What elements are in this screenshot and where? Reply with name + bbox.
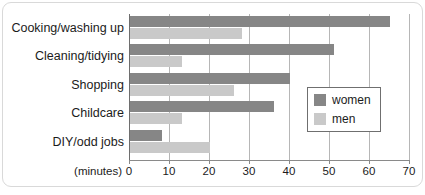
gridline-40	[289, 14, 290, 160]
legend-label-women: women	[332, 94, 371, 106]
bar-men-shopping	[130, 85, 234, 96]
bar-women-cleaning-tidying	[130, 44, 334, 55]
chart-figure: Cooking/washing upCleaning/tidyingShoppi…	[0, 0, 425, 195]
legend-item-women: women	[314, 94, 371, 106]
legend-swatch-women-icon	[314, 94, 326, 106]
x-ticklabel-20: 20	[203, 165, 216, 177]
bar-women-diy-odd-jobs	[130, 130, 162, 141]
x-ticklabel-60: 60	[363, 165, 376, 177]
category-label-shopping: Shopping	[71, 78, 124, 92]
bar-women-childcare	[130, 101, 274, 112]
x-tickmark-50	[329, 160, 330, 164]
x-tickmark-30	[249, 160, 250, 164]
x-ticklabel-0: 0	[126, 165, 132, 177]
bar-men-cooking-washing-up	[130, 28, 242, 39]
gridline-30	[249, 14, 250, 160]
x-axis-line	[129, 160, 410, 161]
bar-women-cooking-washing-up	[130, 16, 390, 27]
x-tickmark-10	[169, 160, 170, 164]
x-tickmark-60	[369, 160, 370, 164]
bar-men-cleaning-tidying	[130, 56, 182, 67]
x-tickmark-0	[129, 160, 130, 164]
gridline-70	[409, 14, 410, 160]
category-label-cooking-washing-up: Cooking/washing up	[11, 21, 124, 35]
category-label-childcare: Childcare	[71, 106, 124, 120]
bar-men-diy-odd-jobs	[130, 142, 210, 153]
bar-women-shopping	[130, 73, 290, 84]
category-label-cleaning-tidying: Cleaning/tidying	[35, 49, 124, 63]
legend-item-men: men	[314, 113, 355, 125]
x-ticklabel-40: 40	[283, 165, 296, 177]
x-ticklabel-10: 10	[163, 165, 176, 177]
x-ticklabel-70: 70	[403, 165, 416, 177]
x-ticklabel-50: 50	[323, 165, 336, 177]
x-axis-units-label: (minutes)	[74, 165, 122, 177]
x-tickmark-20	[209, 160, 210, 164]
legend-label-men: men	[332, 113, 355, 125]
x-tickmark-70	[409, 160, 410, 164]
legend-swatch-men-icon	[314, 113, 326, 125]
x-ticklabel-30: 30	[243, 165, 256, 177]
bar-men-childcare	[130, 113, 182, 124]
x-tickmark-40	[289, 160, 290, 164]
category-label-diy-odd-jobs: DIY/odd jobs	[52, 135, 124, 149]
chart-legend: women men	[307, 87, 381, 132]
